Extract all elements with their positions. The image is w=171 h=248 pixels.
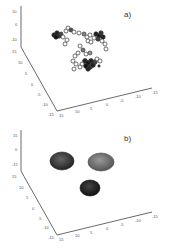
- svg-text:-15: -15: [12, 162, 19, 167]
- y-axis-ticks-b: 15 10 5 0 -5 -10 -15: [12, 174, 55, 240]
- svg-text:5: 5: [26, 195, 29, 200]
- svg-text:10: 10: [12, 9, 17, 14]
- scatter-points-a: [52, 26, 108, 71]
- svg-text:0: 0: [106, 102, 109, 107]
- svg-text:-5: -5: [37, 92, 41, 97]
- clusters-b: [50, 152, 114, 196]
- z-axis-ticks-b: 15 0 -15: [12, 133, 19, 167]
- svg-text:-10: -10: [11, 37, 18, 42]
- svg-text:5: 5: [25, 71, 28, 76]
- panel-a: 10 0 -10 15 10 5 0 -5 -10 -15 15 10 5 0 …: [0, 0, 171, 124]
- panel-label-b: b): [124, 134, 131, 143]
- svg-text:-5: -5: [38, 216, 42, 221]
- plot-b-3d-scatter: 15 0 -15 15 10 5 0 -5 -10 -15 15 10 5 0 …: [0, 124, 171, 248]
- svg-text:5: 5: [90, 106, 93, 111]
- svg-text:15: 15: [59, 237, 64, 242]
- x-axis-ticks-b: 15 10 5 0 -5 -10 -15: [59, 214, 159, 242]
- svg-text:0: 0: [32, 206, 35, 211]
- svg-text:-10: -10: [42, 102, 49, 107]
- svg-text:10: 10: [19, 185, 24, 190]
- svg-text:10: 10: [18, 60, 23, 65]
- axes-a: [21, 6, 152, 111]
- cluster-right: [88, 153, 114, 171]
- svg-text:0: 0: [15, 147, 18, 152]
- panel-b: 15 0 -15 15 10 5 0 -5 -10 -15 15 10 5 0 …: [0, 124, 171, 248]
- svg-text:15: 15: [12, 174, 17, 179]
- panel-label-a: a): [124, 10, 131, 19]
- z-axis-ticks-a: 10 0 -10: [11, 9, 18, 42]
- plot-a-3d-scatter: 10 0 -10 15 10 5 0 -5 -10 -15 15 10 5 0 …: [0, 0, 171, 124]
- svg-text:10: 10: [75, 109, 80, 114]
- cluster-bottom: [80, 180, 100, 196]
- svg-text:-5: -5: [120, 98, 124, 103]
- svg-text:-10: -10: [135, 218, 142, 223]
- svg-text:15: 15: [59, 113, 64, 118]
- svg-text:-5: -5: [120, 222, 124, 227]
- svg-text:-10: -10: [43, 225, 50, 230]
- svg-text:-15: -15: [48, 235, 55, 240]
- cluster-left: [50, 152, 74, 170]
- svg-text:10: 10: [75, 233, 80, 238]
- svg-text:0: 0: [15, 22, 18, 27]
- svg-text:0: 0: [106, 226, 109, 231]
- svg-text:-15: -15: [152, 90, 159, 95]
- svg-text:-15: -15: [152, 214, 159, 219]
- x-axis-ticks-a: 15 10 5 0 -5 -10 -15: [59, 90, 159, 118]
- svg-text:0: 0: [31, 82, 34, 87]
- svg-text:5: 5: [90, 230, 93, 235]
- y-axis-ticks-a: 15 10 5 0 -5 -10 -15: [12, 49, 55, 117]
- svg-text:-10: -10: [135, 94, 142, 99]
- svg-text:15: 15: [12, 49, 17, 54]
- svg-text:-15: -15: [48, 112, 55, 117]
- svg-text:15: 15: [13, 133, 18, 138]
